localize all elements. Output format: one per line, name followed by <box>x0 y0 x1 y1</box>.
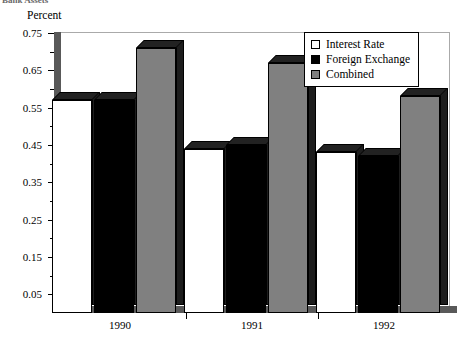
bar-top-face <box>94 92 142 100</box>
y-axis-tick-label: 0.25 <box>8 214 42 226</box>
bar-front-face <box>400 96 440 313</box>
bar-top-face <box>52 92 100 100</box>
y-axis-tick-label: 0.65 <box>8 64 42 76</box>
clipped-header-caption: Bank Assets <box>2 0 142 5</box>
y-axis-tick-label: 0.45 <box>8 139 42 151</box>
bar-front-face <box>268 63 308 313</box>
bar-side-face <box>440 88 448 305</box>
bar-interest-rate-1990 <box>52 100 92 313</box>
x-axis-label-1991: 1991 <box>241 319 263 331</box>
y-axis-minor-tick <box>50 89 54 90</box>
legend-label: Combined <box>326 68 374 80</box>
legend-label: Interest Rate <box>326 38 384 50</box>
bar-front-face <box>136 48 176 313</box>
y-axis-title: Percent <box>27 9 61 21</box>
y-axis-tick-label: 0.55 <box>8 102 42 114</box>
bar-interest-rate-1992 <box>316 152 356 313</box>
x-axis-tick <box>318 313 319 319</box>
y-axis-tick <box>48 33 54 34</box>
x-axis-label-1992: 1992 <box>373 319 395 331</box>
legend-item-combined: Combined <box>311 67 410 82</box>
bar-foreign-exchange-1991 <box>226 145 266 313</box>
legend-swatch-icon <box>311 40 320 49</box>
legend-label: Foreign Exchange <box>326 53 410 65</box>
bar-top-face <box>226 137 274 145</box>
bar-combined-1992 <box>400 96 440 313</box>
bar-side-face <box>308 55 316 305</box>
bar-front-face <box>358 156 398 313</box>
legend-item-foreign-exchange: Foreign Exchange <box>311 52 410 67</box>
bar-top-face <box>136 40 184 48</box>
bar-combined-1990 <box>136 48 176 313</box>
y-axis-tick-label: 0.35 <box>8 176 42 188</box>
y-axis-tick <box>48 70 54 71</box>
bar-interest-rate-1991 <box>184 149 224 313</box>
bar-foreign-exchange-1990 <box>94 100 134 313</box>
chart-legend: Interest RateForeign ExchangeCombined <box>304 32 419 87</box>
y-axis-tick-label: 0.15 <box>8 251 42 263</box>
bar-front-face <box>52 100 92 313</box>
legend-item-interest-rate: Interest Rate <box>311 37 410 52</box>
bar-side-face <box>176 40 184 305</box>
x-axis-tick <box>186 313 187 319</box>
legend-swatch-icon <box>311 70 320 79</box>
bar-combined-1991 <box>268 63 308 313</box>
y-axis-minor-tick <box>50 52 54 53</box>
bar-front-face <box>226 145 266 313</box>
bar-front-face <box>316 152 356 313</box>
bar-foreign-exchange-1992 <box>358 156 398 313</box>
x-axis-label-1990: 1990 <box>109 319 131 331</box>
legend-swatch-icon <box>311 55 320 64</box>
y-axis-tick-label: 0.05 <box>8 288 42 300</box>
bar-front-face <box>94 100 134 313</box>
y-axis-tick-label: 0.75 <box>8 27 42 39</box>
bar-front-face <box>184 149 224 313</box>
bar-top-face <box>358 148 406 156</box>
